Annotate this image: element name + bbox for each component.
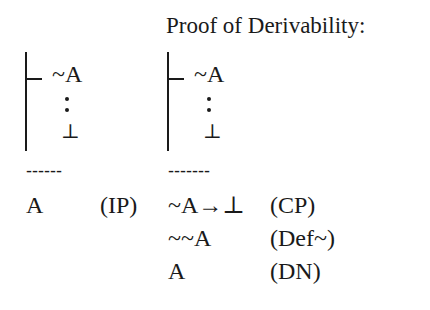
step-formula: A (168, 259, 185, 283)
right-ellipsis-dot (207, 108, 211, 112)
right-contradiction: ⊥ (203, 121, 222, 141)
right-assumption-tick (167, 78, 184, 80)
step-rule: (CP) (270, 193, 315, 217)
left-contradiction: ⊥ (61, 121, 80, 141)
right-scope-line (167, 52, 169, 151)
right-separator: ------- (168, 162, 210, 180)
step-formula: ~A→⊥ (168, 193, 245, 217)
left-scope-line (25, 52, 27, 151)
right-assumption: ~A (194, 62, 224, 86)
left-ellipsis-dot (65, 108, 69, 112)
page-title: Proof of Derivability: (166, 14, 365, 37)
step-rule: (Def~) (270, 226, 335, 250)
step-rule: (DN) (270, 259, 321, 283)
step-formula: ~~A (168, 226, 211, 250)
right-ellipsis-dot (207, 97, 211, 101)
left-conclusion: A (26, 193, 43, 217)
left-assumption-tick (25, 78, 42, 80)
left-ellipsis-dot (65, 97, 69, 101)
left-rule: (IP) (100, 193, 137, 217)
left-assumption: ~A (52, 62, 82, 86)
left-separator: ------ (26, 162, 62, 180)
